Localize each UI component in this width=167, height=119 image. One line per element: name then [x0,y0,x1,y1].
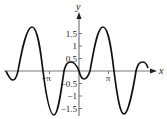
y-tick-label: 1.5 [66,29,78,39]
y-tick-label: −1 [67,91,77,101]
x-axis-label: x [158,65,164,76]
x-tick-label-pi: π [106,73,111,83]
y-axis-arrow-icon [77,12,82,19]
y-tick-label: −1.5 [61,104,78,114]
function-plot: x y 1.5 1 0.5 −0.5 −1 −1.5 −π π [0,0,167,119]
x-axis: x [4,65,164,76]
y-axis-label: y [75,1,81,12]
x-axis-arrow-icon [150,69,157,74]
y-tick-label: 1 [73,41,78,51]
